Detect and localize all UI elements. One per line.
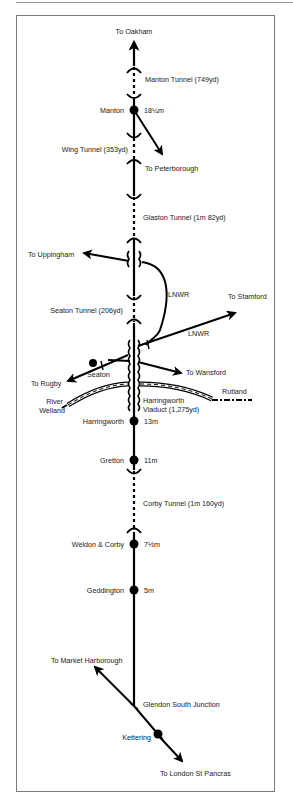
- label-to-wansford: To Wansford: [186, 368, 226, 377]
- arrow-to-stamford: [138, 313, 235, 346]
- label-to-uppingham: To Uppingham: [28, 250, 74, 259]
- arrow-to-market-harborough: [95, 667, 134, 706]
- label-seaton: Seaton: [87, 370, 110, 379]
- label-to-oakham: To Oakham: [116, 27, 153, 36]
- label-rutland: Rutland: [222, 387, 247, 396]
- arrow-to-peterborough: [134, 110, 162, 154]
- junction-ticks: [101, 340, 149, 709]
- label-to-rugby: To Rugby: [31, 379, 62, 388]
- station-dot-weldon-corby: [130, 540, 139, 549]
- label-viaduct-line1: Harringworth: [143, 396, 184, 405]
- label-weldon-corby-mileage: 7½m: [144, 540, 160, 549]
- label-manton-tunnel: Manton Tunnel (749yd): [145, 75, 219, 84]
- route-diagram: To Oakham Manton Tunnel (749yd) Manton 1…: [0, 0, 293, 811]
- label-weldon-corby: Weldon & Corby: [72, 540, 125, 549]
- label-glaston-tunnel: Glaston Tunnel (1m 82yd): [143, 213, 226, 222]
- station-dot-manton: [130, 106, 139, 115]
- arrow-to-wansford: [138, 362, 181, 373]
- label-geddington: Geddington: [87, 586, 124, 595]
- label-lnwr-1: LNWR: [168, 290, 189, 299]
- station-dot-kettering: [154, 730, 163, 739]
- label-to-london-st-pancras: To London St Pancras: [160, 769, 231, 778]
- label-glendon-south-junction: Glendon South Junction: [143, 700, 220, 709]
- label-river-line1: River: [46, 397, 63, 406]
- label-corby-tunnel: Corby Tunnel (1m 160yd): [143, 499, 224, 508]
- label-manton-mileage: 18¼m: [144, 106, 164, 115]
- label-to-peterborough: To Peterborough: [145, 164, 198, 173]
- label-kettering: Kettering: [122, 733, 151, 742]
- label-seaton-tunnel: Seaton Tunnel (206yd): [50, 306, 123, 315]
- station-dot-gretton: [130, 456, 139, 465]
- label-harringworth-mileage: 13m: [144, 417, 158, 426]
- label-manton: Manton: [100, 106, 124, 115]
- label-lnwr-2: LNWR: [188, 329, 209, 338]
- station-dot-harringworth: [130, 417, 139, 426]
- label-gretton: Gretton: [100, 456, 124, 465]
- arrow-to-uppingham: [84, 253, 129, 261]
- label-viaduct-line2: Viaduct (1,275yd): [143, 405, 199, 414]
- station-dot-seaton: [89, 359, 97, 367]
- label-to-market-harborough: To Market Harborough: [51, 656, 123, 665]
- label-to-stamford: To Stamford: [228, 292, 267, 301]
- label-geddington-mileage: 5m: [144, 586, 154, 595]
- label-river-line2: Welland: [39, 406, 65, 415]
- label-wing-tunnel: Wing Tunnel (353yd): [62, 145, 128, 154]
- station-dot-geddington: [130, 586, 139, 595]
- label-harringworth: Harringworth: [83, 417, 124, 426]
- label-gretton-mileage: 11m: [144, 456, 157, 465]
- lnwr-curve: [142, 262, 167, 345]
